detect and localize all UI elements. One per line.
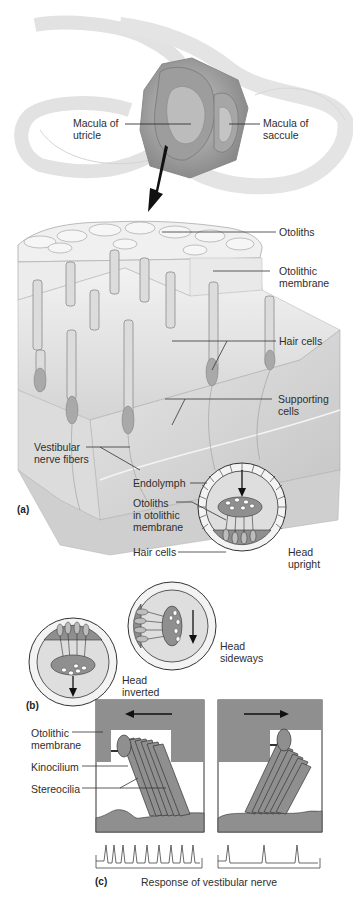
nerve-response-low-rate (218, 845, 320, 868)
label-hair-cells: Hair cells (279, 335, 322, 347)
panel-letter-b: (b) (26, 700, 39, 711)
label-otoliths-in-membrane: Otoliths in otolithic membrane (133, 497, 183, 533)
panel-letter-a: (a) (17, 504, 29, 515)
label-inset-hair-cells: Hair cells (133, 546, 176, 558)
label-macula-utricle: Macula of utricle (73, 117, 119, 141)
label-head-inverted: Head inverted (122, 674, 159, 698)
label-macula-saccule: Macula of saccule (263, 117, 309, 141)
hair-bundle-deflection-right (218, 700, 322, 832)
label-otolithic-membrane-c: Otolithic membrane (31, 727, 81, 751)
label-stereocilia: Stereocilia (31, 783, 80, 795)
label-head-sideways: Head sideways (220, 640, 263, 664)
label-head-upright: Head upright (288, 546, 320, 570)
inset-head-inverted (29, 618, 117, 706)
label-endolymph: Endolymph (133, 477, 186, 489)
label-vestibular-nerve-fibers: Vestibular nerve fibers (34, 441, 89, 465)
nerve-response-high-rate (96, 845, 202, 868)
caption-nerve-response: Response of vestibular nerve (141, 876, 277, 888)
label-supporting-cells: Supporting cells (278, 393, 329, 417)
label-kinocilium: Kinocilium (31, 761, 79, 773)
label-otolithic-membrane: Otolithic membrane (279, 265, 329, 289)
inset-head-sideways (128, 582, 216, 670)
label-otoliths: Otoliths (279, 226, 315, 238)
panel-letter-c: (c) (95, 876, 107, 887)
